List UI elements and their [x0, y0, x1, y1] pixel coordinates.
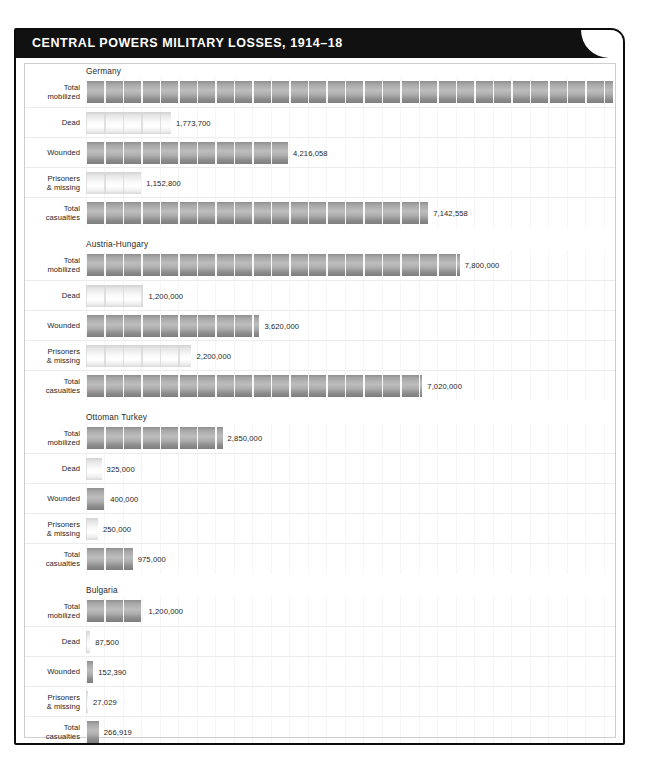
- row-label: Dead: [25, 108, 80, 138]
- row-label: Totalcasualties: [25, 371, 80, 401]
- row-label: Prisoners& missing: [25, 341, 80, 371]
- bar[interactable]: [86, 142, 288, 164]
- row-plot: 7,800,000: [86, 250, 613, 280]
- chart-group: Ottoman TurkeyTotalmobilized2,850,000Dea…: [25, 410, 615, 573]
- bar-value-label: 4,216,058: [293, 138, 328, 168]
- gridlines: [86, 717, 613, 745]
- bar-value-label: 7,800,000: [465, 250, 500, 280]
- row-plot: 27,029: [86, 687, 613, 717]
- row-plot: 2,850,000: [86, 423, 613, 453]
- row-label: Totalmobilized: [25, 77, 80, 107]
- bar[interactable]: [86, 345, 191, 367]
- gridlines: [86, 657, 613, 687]
- bar[interactable]: [86, 721, 99, 743]
- bar[interactable]: [86, 285, 143, 307]
- bar[interactable]: [86, 691, 88, 713]
- chart-group: GermanyTotalmobilized11,000,000Dead1,773…: [25, 64, 615, 227]
- group-rows: Totalmobilized11,000,000Dead1,773,700Wou…: [25, 64, 615, 227]
- row-plot: 1,773,700: [86, 108, 613, 138]
- bar[interactable]: [86, 375, 422, 397]
- bar[interactable]: [86, 600, 143, 622]
- bar-fill: [86, 548, 133, 570]
- row-label-line2: casualties: [46, 732, 80, 741]
- bar-value-label: 27,029: [93, 687, 117, 717]
- row-label: Dead: [25, 281, 80, 311]
- row-label-line2: & missing: [47, 183, 80, 192]
- bar[interactable]: [86, 81, 613, 103]
- bar-value-label: 250,000: [103, 514, 131, 544]
- bar-fill: [86, 254, 460, 276]
- bar[interactable]: [86, 458, 102, 480]
- bar[interactable]: [86, 661, 93, 683]
- bar[interactable]: [86, 254, 460, 276]
- row-plot: 975,000: [86, 544, 613, 574]
- bar[interactable]: [86, 427, 223, 449]
- row-label-line2: mobilized: [47, 92, 80, 101]
- chart-row: Totalcasualties7,020,000: [25, 370, 615, 400]
- row-label-line1: Wounded: [47, 321, 80, 330]
- bar-value-label: 3,620,000: [264, 311, 299, 341]
- bar-fill: [86, 345, 191, 367]
- chart-row: Prisoners& missing27,029: [25, 686, 615, 716]
- row-label: Prisoners& missing: [25, 687, 80, 717]
- bar[interactable]: [86, 488, 105, 510]
- bar-fill: [86, 458, 102, 480]
- bar-fill: [86, 427, 223, 449]
- row-plot: 1,200,000: [86, 281, 613, 311]
- bar[interactable]: [86, 548, 133, 570]
- row-label: Wounded: [25, 657, 80, 687]
- chart-row: Dead87,500: [25, 626, 615, 656]
- bar[interactable]: [86, 172, 141, 194]
- row-label-line1: Total: [64, 550, 80, 559]
- row-label-line2: & missing: [47, 529, 80, 538]
- row-label-line2: mobilized: [47, 438, 80, 447]
- chart-frame: CENTRAL POWERS MILITARY LOSSES, 1914–18 …: [14, 28, 625, 745]
- row-label-line1: Prisoners: [47, 347, 80, 356]
- row-label: Totalmobilized: [25, 250, 80, 280]
- row-plot: 1,152,800: [86, 168, 613, 198]
- bar-fill: [86, 488, 105, 510]
- row-label-line1: Total: [64, 429, 80, 438]
- bar-value-label: 152,390: [98, 657, 126, 687]
- row-label: Dead: [25, 627, 80, 657]
- chart-row: Totalcasualties266,919: [25, 716, 615, 745]
- group-separator: [25, 573, 615, 583]
- chart-row: Wounded3,620,000: [25, 310, 615, 340]
- row-plot: 3,620,000: [86, 311, 613, 341]
- bar[interactable]: [86, 112, 171, 134]
- bar-value-label: 1,773,700: [176, 108, 211, 138]
- chart-panel: GermanyTotalmobilized11,000,000Dead1,773…: [24, 63, 616, 738]
- row-label: Totalcasualties: [25, 544, 80, 574]
- row-plot: 400,000: [86, 484, 613, 514]
- bar-value-label: 1,200,000: [148, 281, 183, 311]
- row-plot: 4,216,058: [86, 138, 613, 168]
- bar-fill: [86, 691, 88, 713]
- row-label-line1: Prisoners: [47, 693, 80, 702]
- row-label-line2: casualties: [46, 559, 80, 568]
- row-label-line1: Wounded: [47, 494, 80, 503]
- row-label-line2: mobilized: [47, 265, 80, 274]
- gridlines: [86, 514, 613, 544]
- bar[interactable]: [86, 202, 428, 224]
- row-label-line1: Total: [64, 377, 80, 386]
- row-plot: 250,000: [86, 514, 613, 544]
- row-label-line2: mobilized: [47, 611, 80, 620]
- bar-fill: [86, 518, 98, 540]
- chart-page: CENTRAL POWERS MILITARY LOSSES, 1914–18 …: [0, 0, 653, 774]
- gridlines: [86, 627, 613, 657]
- group-rows: Totalmobilized2,850,000Dead325,000Wounde…: [25, 410, 615, 573]
- row-label: Wounded: [25, 484, 80, 514]
- group-separator: [25, 227, 615, 237]
- chart-row: Dead325,000: [25, 453, 615, 483]
- row-plot: 152,390: [86, 657, 613, 687]
- row-label-line1: Wounded: [47, 148, 80, 157]
- bar-fill: [86, 600, 143, 622]
- chart-row: Prisoners& missing1,152,800: [25, 167, 615, 197]
- bar[interactable]: [86, 315, 259, 337]
- bar[interactable]: [86, 518, 98, 540]
- bar[interactable]: [86, 631, 90, 653]
- row-label-line2: & missing: [47, 702, 80, 711]
- bar-fill: [86, 315, 259, 337]
- row-label: Wounded: [25, 138, 80, 168]
- row-label: Prisoners& missing: [25, 514, 80, 544]
